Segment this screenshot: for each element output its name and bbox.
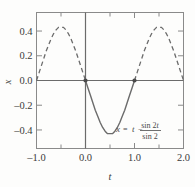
equation-numerator-roman: sin 2: [141, 121, 156, 130]
x-tick-label-2: 2.0: [177, 152, 190, 163]
y-tick-label-0.4: 0.4: [19, 26, 33, 37]
y-axis-title: x: [2, 79, 13, 85]
equation-numerator: sin 2t: [141, 121, 159, 130]
equation-denominator: sin 2: [142, 132, 157, 141]
equation-lhs: x: [115, 124, 120, 134]
y-tick-label--0.2: –0.2: [13, 100, 32, 111]
chart-figure: –0.4–0.20.00.20.4 –1.00.01.02.0 x t x = …: [0, 0, 195, 187]
x-tick-label-1: 1.0: [128, 152, 141, 163]
y-tick-label-0: 0.0: [19, 75, 32, 86]
chart-canvas: –0.4–0.20.00.20.4 –1.00.01.02.0 x t x = …: [0, 0, 195, 187]
equation-equals: =: [123, 125, 128, 134]
y-tick-label--0.4: –0.4: [13, 125, 33, 136]
node-one: [132, 78, 136, 82]
y-tick-label-0.2: 0.2: [19, 50, 32, 61]
node-origin: [83, 78, 87, 82]
x-tick-label--1: –1.0: [26, 152, 45, 163]
x-tick-label-0: 0.0: [79, 152, 92, 163]
